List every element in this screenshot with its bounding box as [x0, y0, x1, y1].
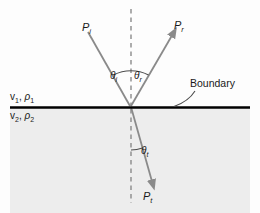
reflected-ray-label-sub: r	[181, 25, 184, 34]
lower-medium-density-sub: 2	[30, 116, 34, 123]
transmission-angle-sub: t	[146, 151, 148, 158]
boundary-leader-line	[174, 91, 195, 107]
reflected-ray-label: Pr	[174, 20, 184, 34]
reflection-angle-sub: r	[139, 76, 141, 83]
transmitted-ray-label: Pt	[143, 191, 152, 205]
transmission-angle-label: θt	[141, 146, 148, 158]
wave-boundary-diagram: Pi Pr Pt θi θr θt v1, ρ1 v2, ρ2 Boundary	[0, 0, 260, 213]
upper-medium-region	[10, 4, 250, 107]
incident-ray-label-sub: i	[89, 27, 91, 36]
transmitted-ray-label-sub: t	[150, 196, 152, 205]
incident-ray-label: Pi	[82, 22, 91, 36]
boundary-annotation-label: Boundary	[190, 78, 235, 89]
lower-medium-label: v2, ρ2	[10, 111, 34, 123]
reflected-ray	[131, 32, 174, 106]
upper-medium-density-sub: 1	[30, 97, 34, 104]
reflection-angle-label: θr	[134, 71, 142, 83]
diagram-canvas	[0, 0, 260, 213]
incident-ray	[88, 32, 130, 106]
incidence-angle-label: θi	[110, 71, 117, 83]
upper-medium-label: v1, ρ1	[10, 92, 34, 104]
incidence-angle-sub: i	[115, 76, 117, 83]
lower-medium-region	[10, 108, 250, 213]
